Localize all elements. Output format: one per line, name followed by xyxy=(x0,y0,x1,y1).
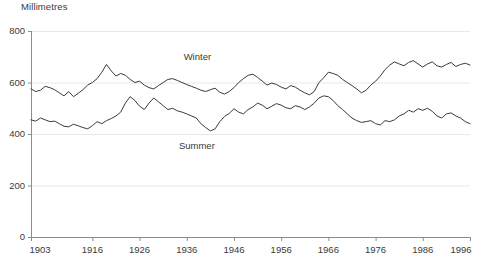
rainfall-line-chart: Millimetres 0200400600800 19031916192619… xyxy=(0,0,481,259)
y-tick-label: 600 xyxy=(0,77,25,88)
y-tick-label: 800 xyxy=(0,25,25,36)
x-tick-label: 1966 xyxy=(308,244,348,255)
x-tick-label: 1936 xyxy=(167,244,207,255)
y-tick-label: 400 xyxy=(0,128,25,139)
y-tick-label: 200 xyxy=(0,180,25,191)
x-tick-label: 1956 xyxy=(261,244,301,255)
x-tick-label: 1916 xyxy=(72,244,112,255)
axes xyxy=(28,31,471,241)
y-tick-label: 0 xyxy=(0,231,25,242)
series-lines xyxy=(31,61,470,131)
x-tick-label: 1946 xyxy=(214,244,254,255)
series-label-winter: Winter xyxy=(184,51,211,62)
x-tick-label: 1976 xyxy=(356,244,396,255)
x-tick-label: 1926 xyxy=(120,244,160,255)
series-line-summer xyxy=(31,96,470,131)
series-line-winter xyxy=(31,61,470,97)
x-tick-label: 1996 xyxy=(441,244,481,255)
plot-area xyxy=(0,0,481,259)
x-tick-label: 1903 xyxy=(20,244,60,255)
x-tick-label: 1986 xyxy=(403,244,443,255)
series-label-summer: Summer xyxy=(179,140,215,151)
